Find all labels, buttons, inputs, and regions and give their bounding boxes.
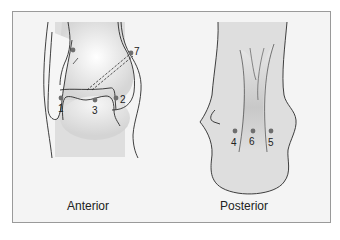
point-3 — [93, 98, 98, 103]
label-1: 1 — [58, 103, 64, 114]
point-7 — [129, 51, 134, 56]
point-6 — [251, 129, 256, 134]
posterior-view: 4 6 5 — [200, 22, 296, 194]
point-4 — [233, 129, 238, 134]
point-2 — [114, 96, 119, 101]
point-5 — [269, 129, 274, 134]
label-4: 4 — [231, 137, 237, 148]
label-2: 2 — [120, 94, 126, 105]
label-5: 5 — [268, 137, 274, 148]
label-6: 6 — [249, 136, 255, 147]
point-1 — [59, 96, 64, 101]
label-7: 7 — [134, 46, 140, 57]
label-3: 3 — [92, 105, 98, 116]
point-unlabeled — [71, 48, 76, 53]
anterior-view: 7 1 3 2 — [44, 22, 141, 158]
caption-anterior: Anterior — [38, 199, 138, 213]
caption-posterior: Posterior — [194, 199, 294, 213]
